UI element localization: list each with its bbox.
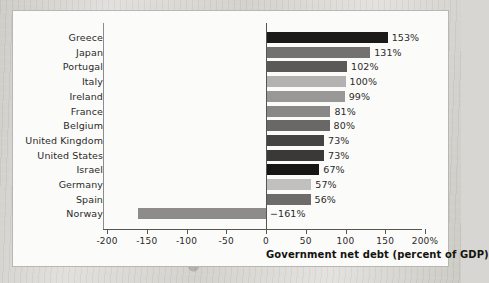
bar-value-label: 80% xyxy=(334,120,355,131)
x-axis-tick-label: -150 xyxy=(136,236,157,246)
bar-value-label: −161% xyxy=(270,208,306,219)
x-axis-tick xyxy=(226,229,227,234)
bar[interactable] xyxy=(266,120,330,131)
bar-value-label: 102% xyxy=(351,61,379,72)
bar[interactable] xyxy=(266,32,388,43)
x-axis-tick xyxy=(385,229,386,234)
bar-value-label: 57% xyxy=(315,179,336,190)
x-axis-tick xyxy=(425,229,426,234)
x-axis-tick xyxy=(306,229,307,234)
bar[interactable] xyxy=(266,150,324,161)
left-category-axis-line xyxy=(103,23,104,229)
category-label: Spain xyxy=(0,194,103,205)
bar[interactable] xyxy=(266,47,370,58)
category-label: Norway xyxy=(0,208,103,219)
category-label: Ireland xyxy=(0,91,103,102)
category-label: Japan xyxy=(0,47,103,58)
x-axis-tick xyxy=(266,229,267,234)
x-axis-tick xyxy=(346,229,347,234)
bar[interactable] xyxy=(266,76,346,87)
category-label: Belgium xyxy=(0,120,103,131)
category-label: Italy xyxy=(0,76,103,87)
bar[interactable] xyxy=(266,61,347,72)
zero-baseline xyxy=(266,23,267,229)
x-axis-tick xyxy=(107,229,108,234)
x-axis-tick-label: -50 xyxy=(219,236,234,246)
bar[interactable] xyxy=(266,91,345,102)
bar[interactable] xyxy=(266,135,324,146)
bar-value-label: 131% xyxy=(374,47,402,58)
bar-value-label: 73% xyxy=(328,135,349,146)
x-axis-tick xyxy=(147,229,148,234)
x-axis-tick-label: 0 xyxy=(263,236,269,246)
x-axis-title: Government net debt (percent of GDP) xyxy=(266,249,489,260)
category-label: Israel xyxy=(0,164,103,175)
x-axis-tick-label: -200 xyxy=(96,236,117,246)
x-axis-line xyxy=(103,229,422,230)
x-axis-tick-label: 150 xyxy=(376,236,394,246)
bar-value-label: 81% xyxy=(334,106,355,117)
bar[interactable] xyxy=(266,164,319,175)
category-label: Portugal xyxy=(0,61,103,72)
bar[interactable] xyxy=(266,179,311,190)
bar-value-label: 100% xyxy=(350,76,378,87)
bar-value-label: 56% xyxy=(315,194,336,205)
category-label: Greece xyxy=(0,32,103,43)
bar-value-label: 67% xyxy=(323,164,344,175)
bar-value-label: 99% xyxy=(349,91,370,102)
category-label: Germany xyxy=(0,179,103,190)
bar[interactable] xyxy=(266,194,311,205)
category-label: United States xyxy=(0,150,103,161)
bar-chart-plot-area: -200-150-100-50050100150200% Greece153%J… xyxy=(13,11,448,266)
x-axis-tick-label: -100 xyxy=(176,236,197,246)
x-axis-tick-label: 200% xyxy=(412,236,439,246)
category-label: United Kingdom xyxy=(0,135,103,146)
category-label: France xyxy=(0,106,103,117)
x-axis-tick-label: 50 xyxy=(300,236,312,246)
x-axis-tick xyxy=(187,229,188,234)
bar-value-label: 153% xyxy=(392,32,420,43)
bar[interactable] xyxy=(266,106,330,117)
figure-panel: -200-150-100-50050100150200% Greece153%J… xyxy=(12,10,449,267)
bar-value-label: 73% xyxy=(328,150,349,161)
x-axis-tick-label: 100 xyxy=(337,236,355,246)
bar[interactable] xyxy=(138,208,266,219)
